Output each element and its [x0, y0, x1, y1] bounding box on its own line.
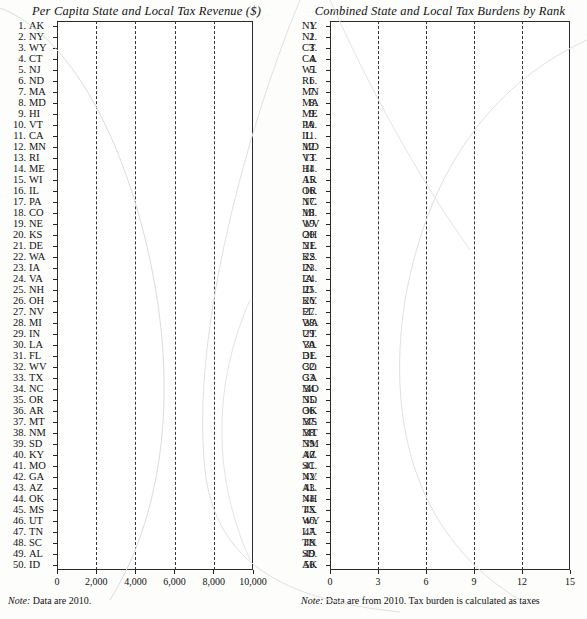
state-abbr: IN	[302, 262, 324, 273]
y-tick	[53, 158, 57, 159]
bar-NH	[330, 495, 458, 503]
bar-DE	[57, 242, 140, 250]
rank-number: 27.	[8, 306, 26, 317]
state-abbr: CA	[302, 53, 324, 64]
state-abbr: VT	[302, 152, 324, 163]
y-tick	[53, 400, 57, 401]
rank-number: 42.	[8, 471, 26, 482]
rank-number: 7.	[8, 86, 26, 97]
y-tick	[326, 180, 330, 181]
x-tick-label: 8,000	[203, 576, 226, 587]
bar-NJ	[57, 66, 173, 74]
y-tick	[53, 356, 57, 357]
y-tick	[326, 103, 330, 104]
bar-NY	[330, 22, 530, 30]
rank-number: 47.	[8, 526, 26, 537]
state-abbr: NJ	[29, 64, 51, 75]
y-tick	[326, 59, 330, 60]
x-tick	[570, 570, 571, 574]
bar-MA	[57, 88, 160, 96]
state-abbr: AR	[302, 174, 324, 185]
rank-number: 25.	[8, 284, 26, 295]
rank-number: 36.	[8, 405, 26, 416]
x-tick	[330, 570, 331, 574]
bar-MS	[57, 506, 117, 514]
y-tick	[53, 367, 57, 368]
y-tick	[326, 147, 330, 148]
y-tick	[326, 334, 330, 335]
x-tick	[253, 570, 254, 574]
state-abbr: IL	[29, 185, 51, 196]
y-tick	[53, 455, 57, 456]
x-tick-label: 12	[517, 576, 527, 587]
state-abbr: KS	[29, 229, 51, 240]
y-tick	[326, 301, 330, 302]
rank-number: 37.	[8, 416, 26, 427]
state-abbr: OH	[302, 229, 324, 240]
bar-IA	[330, 275, 480, 283]
bar-MD	[330, 143, 492, 151]
state-abbr: NC	[29, 383, 51, 394]
bar-KS	[330, 253, 481, 261]
left-chart-panel: Per Capita State and Local Tax Revenue (…	[0, 0, 293, 619]
rank-number: 6.	[8, 75, 26, 86]
bar-IA	[57, 264, 138, 272]
state-abbr: NM	[29, 427, 51, 438]
bar-TN	[57, 528, 115, 536]
state-abbr: CO	[302, 361, 324, 372]
state-abbr: MA	[29, 86, 51, 97]
y-tick	[53, 521, 57, 522]
state-abbr: MS	[29, 504, 51, 515]
bar-NJ	[330, 33, 525, 41]
state-abbr: TN	[302, 537, 324, 548]
y-tick	[53, 235, 57, 236]
bar-WI	[330, 66, 509, 74]
state-abbr: WV	[29, 361, 51, 372]
state-abbr: SD	[29, 438, 51, 449]
rank-number: 17.	[8, 196, 26, 207]
y-tick	[53, 554, 57, 555]
y-tick	[326, 279, 330, 280]
bar-AK	[57, 22, 246, 30]
bar-NE	[57, 220, 141, 228]
rank-number: 8.	[8, 97, 26, 108]
rank-number: 48.	[8, 537, 26, 548]
y-tick	[53, 565, 57, 566]
state-abbr: VA	[302, 339, 324, 350]
state-abbr: MD	[29, 97, 51, 108]
state-abbr: NJ	[302, 31, 324, 42]
state-abbr: ME	[302, 108, 324, 119]
y-tick	[326, 400, 330, 401]
y-tick	[326, 81, 330, 82]
y-tick	[53, 312, 57, 313]
state-abbr: ND	[302, 394, 324, 405]
bar-NC	[330, 198, 486, 206]
state-abbr: WI	[302, 64, 324, 75]
gridline	[522, 21, 523, 570]
y-tick	[53, 70, 57, 71]
bar-SD	[57, 440, 123, 448]
y-tick	[326, 488, 330, 489]
y-tick	[53, 213, 57, 214]
y-tick	[326, 246, 330, 247]
y-tick	[326, 312, 330, 313]
bar-OK	[330, 407, 468, 415]
state-abbr: IN	[29, 328, 51, 339]
y-tick	[53, 510, 57, 511]
bar-CT	[330, 44, 522, 52]
bar-LA	[57, 341, 131, 349]
state-abbr: MT	[302, 427, 324, 438]
y-tick	[53, 180, 57, 181]
x-tick-label: 15	[565, 576, 575, 587]
bar-OH	[330, 231, 483, 239]
bar-CA	[57, 132, 152, 140]
state-abbr: MI	[29, 317, 51, 328]
rank-number: 14.	[8, 163, 26, 174]
bar-NM	[330, 440, 463, 448]
y-tick	[326, 444, 330, 445]
bar-RI	[330, 77, 504, 85]
y-tick	[326, 532, 330, 533]
state-abbr: NE	[29, 218, 51, 229]
y-tick	[326, 455, 330, 456]
bar-IL	[330, 132, 492, 140]
